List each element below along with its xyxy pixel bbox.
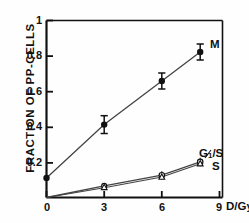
data-point-m-6 (159, 78, 165, 84)
series-m-line (47, 52, 201, 178)
chart-figure: FRACTION OF PP-CELLS (0, 0, 249, 223)
x-tick-label-6: 6 (151, 201, 173, 213)
y-tick-label-0-6: 0.6 (2, 85, 42, 97)
series-label-g1s: G1/S (199, 147, 223, 160)
series-g1s-line (47, 162, 201, 198)
y-tick-label-0-8: 0.8 (2, 49, 42, 61)
y-tick-label-1: 1 (2, 14, 42, 26)
series-label-g1s-tail: /S (212, 147, 223, 159)
series-m-markers (43, 49, 203, 181)
series-label-m: M (210, 38, 220, 50)
y-tick-label-0-4: 0.4 (2, 120, 42, 132)
y-tick-label-0-2: 0.2 (2, 156, 42, 168)
series-label-g1s-letter: G (199, 147, 208, 159)
x-axis-title: D/Gy (226, 200, 249, 212)
series-label-s: S (212, 160, 220, 172)
data-point-m-9 (197, 49, 203, 55)
data-point-m-3 (101, 121, 107, 127)
x-tick-label-3: 3 (93, 201, 115, 213)
chart-plot-area (0, 0, 249, 223)
data-point-m-0 (43, 175, 49, 181)
x-tick-label-0: 0 (36, 201, 58, 213)
axis-frame (47, 21, 223, 198)
